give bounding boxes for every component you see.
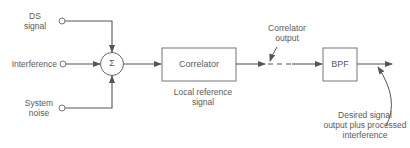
local-ref-line2: signal	[166, 97, 240, 107]
local-reference-label: Local reference signal	[166, 87, 240, 107]
final-out-line2: output plus processed	[320, 120, 410, 130]
final-output-label: Desired signal output plus processed int…	[320, 110, 410, 140]
ds-signal-input	[59, 18, 112, 52]
correlator-output-pointer	[270, 47, 277, 61]
interference-label: Interference	[5, 59, 57, 69]
ds-label-line1: DS	[22, 11, 48, 21]
corr-out-line2: output	[262, 33, 312, 43]
system-noise-input	[59, 76, 112, 111]
ds-label-line2: signal	[22, 21, 48, 31]
corr-out-line1: Correlator	[262, 23, 312, 33]
sigma-symbol: Σ	[104, 58, 120, 68]
system-noise-label: System noise	[22, 98, 56, 118]
noise-label-line2: noise	[22, 108, 56, 118]
final-out-line3: interference	[320, 130, 410, 140]
correlator-label: Correlator	[162, 59, 236, 69]
local-ref-line1: Local reference	[166, 87, 240, 97]
bpf-label: BPF	[323, 59, 357, 69]
ds-signal-label: DS signal	[22, 11, 48, 31]
final-out-line1: Desired signal	[320, 110, 410, 120]
correlator-output-label: Correlator output	[262, 23, 312, 43]
interference-input	[60, 61, 100, 67]
noise-label-line1: System	[22, 98, 56, 108]
